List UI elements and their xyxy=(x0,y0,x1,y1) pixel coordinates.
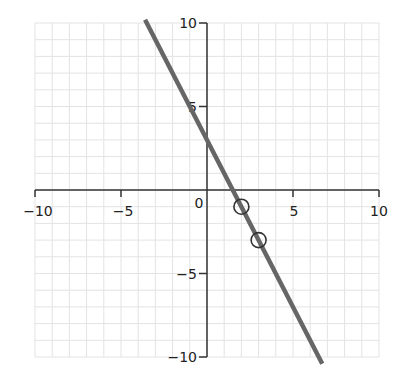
y-tick-label: 10 xyxy=(179,15,197,31)
x-tick-label: −10 xyxy=(23,203,53,219)
x-tick-label: −5 xyxy=(113,203,134,219)
y-tick-label: −10 xyxy=(167,349,197,365)
line-series xyxy=(145,20,322,364)
x-tick-label: 5 xyxy=(290,203,299,219)
origin-label: 0 xyxy=(195,195,204,211)
x-tick-label: 10 xyxy=(370,203,388,219)
y-tick-label: −5 xyxy=(176,266,197,282)
chart: −10−50510105−5−10 xyxy=(0,0,403,380)
data-line xyxy=(145,20,322,364)
